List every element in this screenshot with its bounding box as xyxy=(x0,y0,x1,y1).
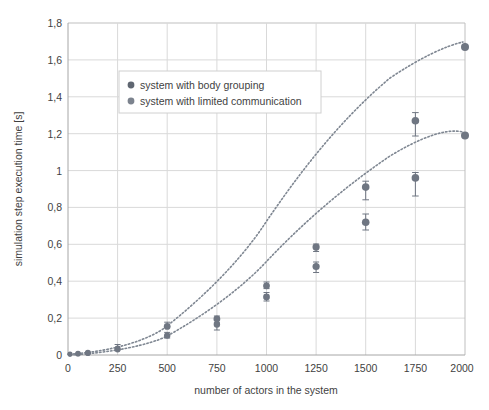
x-tick-label: 1750 xyxy=(404,362,428,374)
x-tick-label: 750 xyxy=(208,362,226,374)
x-axis-title: number of actors in the system xyxy=(194,384,338,396)
data-point xyxy=(214,316,221,323)
data-point xyxy=(68,352,73,357)
data-point xyxy=(164,332,170,338)
x-tick-label: 1000 xyxy=(255,362,279,374)
x-tick-label: 500 xyxy=(158,362,176,374)
y-tick-labels: 1,8 1,6 1,4 1,2 1 0,8 0,6 0,4 0,2 0 xyxy=(47,17,62,361)
data-point xyxy=(115,347,121,353)
y-tick-label: 1,8 xyxy=(47,17,62,29)
data-point xyxy=(263,282,270,289)
y-tick-label: 1,4 xyxy=(47,91,62,103)
data-point xyxy=(75,351,80,356)
data-point xyxy=(412,174,420,182)
x-tick-label: 2000 xyxy=(450,362,474,374)
data-point xyxy=(461,43,469,51)
data-point xyxy=(412,117,420,125)
y-axis-title: simulation step execution time [s] xyxy=(12,112,24,267)
y-tick-label: 1,2 xyxy=(47,128,62,140)
x-tick-label: 250 xyxy=(109,362,127,374)
x-tick-label: 1250 xyxy=(304,362,328,374)
data-point xyxy=(313,263,320,270)
data-point xyxy=(362,218,370,226)
data-point xyxy=(313,244,320,251)
data-point xyxy=(214,321,220,327)
x-tick-label: 1500 xyxy=(354,362,378,374)
chart-svg: 1,8 1,6 1,4 1,2 1 0,8 0,6 0,4 0,2 0 0 25… xyxy=(0,0,489,410)
data-point xyxy=(85,350,91,356)
x-tick-label: 0 xyxy=(65,362,71,374)
data-point xyxy=(461,131,469,139)
data-point xyxy=(263,294,270,301)
legend-label: system with limited communication xyxy=(140,95,302,107)
data-point xyxy=(164,323,171,330)
legend-label: system with body grouping xyxy=(140,79,264,91)
y-tick-label: 0,2 xyxy=(47,312,62,324)
legend-marker-icon xyxy=(128,82,135,89)
data-point xyxy=(362,183,370,191)
y-tick-label: 1 xyxy=(56,165,62,177)
x-tick-labels: 0 250 500 750 1000 1250 1500 1750 2000 xyxy=(65,362,474,374)
legend-marker-icon xyxy=(128,98,135,105)
y-tick-label: 1,6 xyxy=(47,54,62,66)
y-tick-label: 0 xyxy=(56,349,62,361)
chart-figure: 1,8 1,6 1,4 1,2 1 0,8 0,6 0,4 0,2 0 0 25… xyxy=(0,0,489,410)
chart-legend: system with body grouping system with li… xyxy=(119,71,321,113)
y-tick-label: 0,6 xyxy=(47,238,62,250)
y-tick-label: 0,8 xyxy=(47,201,62,213)
y-tick-label: 0,4 xyxy=(47,275,62,287)
